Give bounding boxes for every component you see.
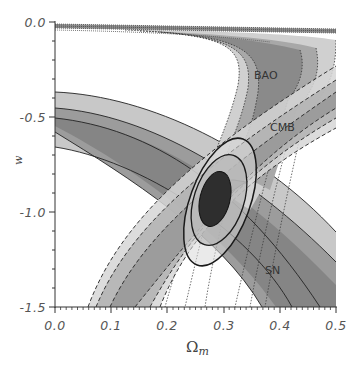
y-tick-label: 0.0 xyxy=(25,15,46,30)
bao-label: BAO xyxy=(254,69,278,82)
x-axis-title: Ωm xyxy=(186,338,209,358)
x-tick-label: 0.1 xyxy=(100,318,121,333)
x-tick-label: 0.3 xyxy=(213,318,234,333)
y-tick-label: -0.5 xyxy=(20,110,46,125)
x-axis-title-sub: m xyxy=(198,345,208,358)
y-tick-label: -1.5 xyxy=(20,300,46,315)
x-tick-label: 0.5 xyxy=(325,318,346,333)
y-axis-title: w xyxy=(12,155,25,165)
x-tick-label: 0.4 xyxy=(269,318,290,333)
chart: BAO CMB SN xyxy=(0,0,361,370)
x-axis-title-main: Ω xyxy=(186,338,198,356)
sn-label: SN xyxy=(265,264,280,277)
plot-area xyxy=(55,24,336,307)
x-tick-label: 0.2 xyxy=(156,318,177,333)
x-axis xyxy=(55,307,337,313)
x-tick-label: 0.0 xyxy=(44,318,65,333)
cmb-label: CMB xyxy=(270,121,295,134)
x-tick-labels: 0.0 0.1 0.2 0.3 0.4 0.5 xyxy=(44,318,346,333)
y-axis xyxy=(49,21,55,308)
y-tick-label: -1.0 xyxy=(20,205,46,220)
